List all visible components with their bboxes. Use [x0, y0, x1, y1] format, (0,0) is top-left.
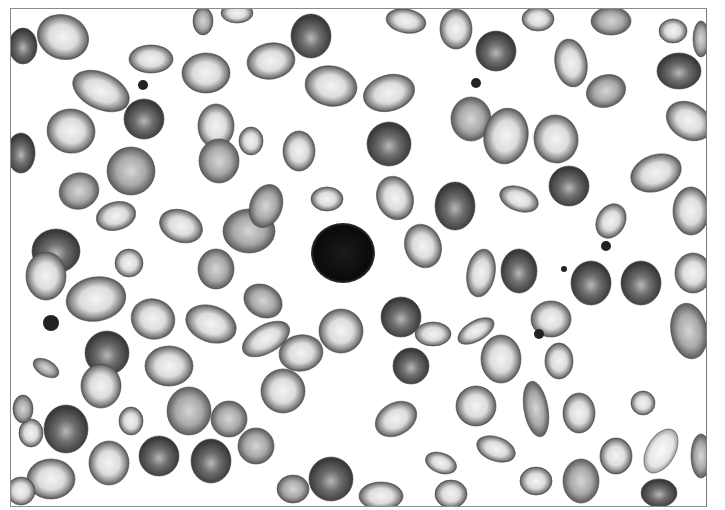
red-blood-cell [244, 39, 298, 83]
red-blood-cell [590, 198, 632, 243]
red-blood-cell [238, 277, 289, 325]
red-blood-cell [198, 249, 234, 289]
platelet [138, 80, 148, 90]
red-blood-cell [54, 167, 104, 215]
red-blood-cell [155, 203, 207, 248]
red-blood-cell [369, 394, 423, 444]
red-blood-cell [675, 253, 707, 293]
red-blood-cell [238, 428, 274, 464]
red-blood-cell [371, 171, 420, 225]
red-blood-cell [399, 219, 448, 273]
red-blood-cell [191, 439, 231, 483]
red-blood-cell [26, 252, 66, 300]
red-blood-cell [302, 62, 360, 110]
red-blood-cell [93, 197, 139, 234]
red-blood-cell [277, 475, 309, 503]
red-blood-cell [167, 387, 211, 435]
red-blood-cell [44, 105, 99, 157]
red-blood-cell [115, 249, 143, 277]
platelet [561, 266, 567, 272]
red-blood-cell [81, 364, 121, 408]
red-blood-cell [423, 448, 460, 478]
red-blood-cell [520, 467, 552, 495]
red-blood-cell [367, 122, 411, 166]
red-blood-cell [657, 53, 701, 89]
red-blood-cell [89, 441, 129, 485]
red-blood-cell [691, 434, 707, 478]
platelet [534, 329, 544, 339]
red-blood-cell [621, 261, 661, 305]
red-blood-cell [261, 369, 305, 413]
red-blood-cell [31, 9, 95, 67]
red-blood-cell [359, 482, 403, 507]
platelet [471, 78, 481, 88]
red-blood-cell [415, 322, 451, 346]
red-blood-cell [129, 45, 173, 73]
red-blood-cell [119, 407, 143, 435]
red-blood-cell [193, 9, 213, 35]
red-blood-cell [145, 346, 193, 386]
red-blood-cell [666, 300, 707, 361]
red-blood-cell [44, 405, 88, 453]
red-blood-cell [291, 14, 331, 58]
red-blood-cell [530, 112, 582, 167]
red-blood-cell [693, 21, 707, 57]
red-blood-cell [309, 457, 353, 501]
red-blood-cell [456, 386, 496, 426]
red-blood-cell [319, 309, 363, 353]
platelet [43, 315, 59, 331]
red-blood-cell [659, 19, 687, 43]
red-blood-cell [435, 480, 467, 507]
red-blood-cell [496, 181, 542, 217]
red-blood-cell [63, 272, 130, 326]
red-blood-cell [239, 127, 263, 155]
red-blood-cell [571, 261, 611, 305]
red-blood-cell [11, 133, 35, 173]
red-blood-cell [11, 28, 37, 64]
micrograph-frame [10, 8, 707, 507]
red-blood-cell [211, 401, 247, 437]
red-blood-cell [125, 293, 180, 346]
red-blood-cell [30, 354, 62, 382]
red-blood-cell [481, 335, 521, 383]
red-blood-cell [673, 187, 707, 235]
red-blood-cell [631, 391, 655, 415]
red-blood-cell [440, 9, 472, 49]
red-blood-cell [625, 147, 686, 199]
red-blood-cell [359, 69, 419, 117]
lymphocyte-nucleus [311, 223, 375, 283]
red-blood-cell [435, 182, 475, 230]
red-blood-cell [476, 31, 516, 71]
red-blood-cell [393, 348, 429, 384]
red-blood-cell [600, 438, 632, 474]
red-blood-cell [551, 37, 591, 90]
red-blood-cell [659, 93, 707, 148]
red-blood-cell [519, 379, 552, 438]
red-blood-cell [124, 99, 164, 139]
red-blood-cell [473, 431, 519, 467]
red-blood-cell [563, 393, 595, 433]
red-blood-cell [139, 436, 179, 476]
red-blood-cell [563, 459, 599, 503]
red-blood-cell [501, 249, 537, 293]
red-blood-cell [591, 9, 631, 35]
red-blood-cell [549, 166, 589, 206]
red-blood-cell [522, 9, 554, 31]
platelet [601, 241, 611, 251]
red-blood-cell [637, 423, 685, 479]
red-blood-cell [641, 479, 677, 507]
red-blood-cell [221, 9, 253, 23]
red-blood-cell [180, 298, 241, 350]
red-blood-cell [11, 477, 35, 505]
nucleus [311, 223, 375, 283]
red-blood-cell [199, 139, 239, 183]
red-blood-cell [384, 9, 428, 36]
red-blood-cell [545, 343, 573, 379]
red-blood-cell [283, 131, 315, 171]
red-blood-cell [182, 53, 230, 93]
red-blood-cell [311, 187, 343, 211]
blood-smear-image [11, 9, 707, 507]
red-blood-cell [107, 147, 155, 195]
red-blood-cell [582, 69, 631, 113]
red-blood-cell [13, 395, 33, 423]
